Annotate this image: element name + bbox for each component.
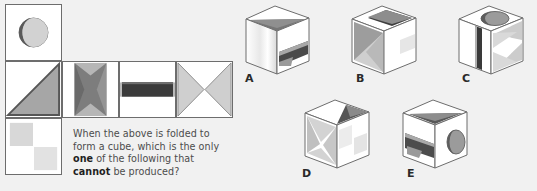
option-label-d: D (302, 167, 311, 180)
net-face-band (119, 61, 176, 118)
option-cube-d[interactable] (300, 98, 374, 176)
option-cube-c[interactable] (455, 4, 527, 82)
puzzle-canvas: When the above is folded to form a cube,… (0, 0, 537, 191)
net-face-hourglass (176, 61, 233, 118)
question-emphasis-cannot: cannot (73, 166, 110, 177)
net-face-triangle (5, 61, 62, 118)
question-line2-pre: cube, which is the only (108, 141, 219, 152)
option-label-e: E (407, 167, 415, 180)
question-line3-pre: following that (128, 153, 194, 164)
option-cube-a[interactable] (243, 4, 313, 82)
net-face-bowtie (62, 61, 119, 118)
net-face-moon (5, 4, 62, 61)
question-text: When the above is folded to form a cube,… (73, 128, 231, 178)
option-label-a: A (245, 72, 254, 85)
net-face-checkerboard (5, 118, 62, 175)
option-cube-b[interactable] (348, 4, 420, 82)
question-line3-post: be produced? (110, 166, 179, 177)
option-cube-e[interactable] (398, 98, 472, 176)
question-emphasis-one: one (73, 153, 93, 164)
option-label-b: B (356, 72, 364, 85)
option-label-c: C (462, 72, 470, 85)
question-line2-post: of the (93, 153, 124, 164)
